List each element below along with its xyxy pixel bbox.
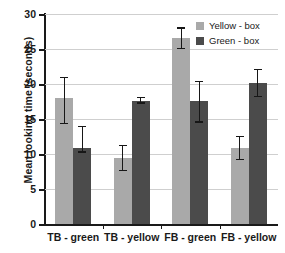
y-tick-mark	[39, 189, 45, 191]
x-axis-label: FB - yellow	[220, 231, 279, 243]
legend-swatch-icon-green-box	[196, 37, 204, 45]
error-bar-cap-bottom	[137, 102, 145, 103]
x-axis-label: FB - green	[161, 231, 220, 243]
bar	[132, 101, 150, 224]
error-bar-stem	[239, 136, 240, 161]
y-tick-label: 15	[0, 114, 36, 125]
error-bar	[254, 69, 262, 98]
bar	[73, 148, 91, 224]
error-bar-cap-bottom	[195, 121, 203, 122]
legend-label-yellow-box: Yellow - box	[209, 20, 260, 31]
error-bar-stem	[64, 77, 65, 124]
legend-swatch-icon-yellow-box	[196, 22, 204, 30]
error-bar	[236, 136, 244, 161]
error-bar-cap-top	[254, 69, 262, 70]
error-bar-cap-top	[195, 81, 203, 82]
error-bar-cap-bottom	[236, 159, 244, 160]
error-bar-stem	[199, 81, 200, 123]
legend-label-green-box: Green - box	[209, 35, 259, 46]
y-tick-mark	[39, 49, 45, 51]
y-tick-mark	[39, 84, 45, 86]
error-bar-cap-bottom	[60, 123, 68, 124]
y-axis-title: Mean looking time (seconds)	[22, 10, 34, 210]
error-bar-cap-top	[60, 77, 68, 78]
x-tick-mark	[220, 224, 221, 229]
bar	[249, 83, 267, 224]
y-tick-mark	[39, 119, 45, 121]
error-bar-cap-bottom	[254, 96, 262, 97]
error-bar-cap-top	[137, 97, 145, 98]
x-tick-mark	[161, 224, 162, 229]
y-tick-mark	[39, 224, 45, 226]
y-tick-label: 0	[0, 219, 36, 230]
x-axis-label: TB - green	[44, 231, 103, 243]
y-tick-mark	[39, 154, 45, 156]
error-bar	[78, 126, 86, 153]
y-tick-label: 25	[0, 44, 36, 55]
error-bar-stem	[257, 69, 258, 98]
legend-item-yellow-box: Yellow - box	[196, 19, 260, 32]
error-bar	[60, 77, 68, 124]
error-bar-cap-top	[119, 145, 127, 146]
error-bar	[195, 81, 203, 123]
error-bar-cap-bottom	[119, 170, 127, 171]
error-bar-stem	[122, 145, 123, 172]
y-tick-mark	[39, 14, 45, 16]
y-tick-label: 10	[0, 149, 36, 160]
y-tick-label: 30	[0, 9, 36, 20]
gridline	[44, 49, 278, 50]
chart-legend: Yellow - box Green - box	[196, 19, 260, 49]
error-bar-cap-top	[78, 126, 86, 127]
bar	[172, 38, 190, 224]
error-bar	[137, 97, 145, 104]
error-bar-stem	[181, 27, 182, 49]
error-bar-cap-bottom	[177, 48, 185, 49]
x-tick-mark	[103, 224, 104, 229]
error-bar-cap-top	[177, 27, 185, 28]
error-bar-cap-bottom	[78, 151, 86, 152]
bar-chart: Mean looking time (seconds) 051015202530…	[0, 0, 285, 253]
error-bar-stem	[82, 126, 83, 153]
y-tick-label: 20	[0, 79, 36, 90]
gridline	[44, 14, 278, 15]
error-bar	[177, 27, 185, 49]
error-bar-cap-top	[236, 136, 244, 137]
x-axis-label: TB - yellow	[103, 231, 162, 243]
legend-item-green-box: Green - box	[196, 34, 260, 47]
error-bar	[119, 145, 127, 172]
gridline	[44, 84, 278, 85]
y-tick-label: 5	[0, 184, 36, 195]
gridline	[44, 119, 278, 120]
